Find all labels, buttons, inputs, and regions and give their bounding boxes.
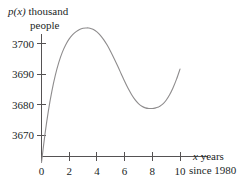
y-tick-label-3690: 3690: [12, 68, 35, 80]
y-axis-title-line1: p(x) thousand: [7, 5, 69, 18]
x-tick-label-8: 8: [150, 165, 156, 177]
y-axis-tick-labels: 3700 3690 3680 3670: [12, 38, 35, 142]
x-tick-label-0: 0: [39, 165, 45, 177]
x-axis-tick-labels: 0 2 4 6 8 10: [39, 165, 186, 177]
chart-svg: 3700 3690 3680 3670 0 2 4 6 8 10 p(x) th…: [0, 0, 250, 195]
population-curve: [42, 28, 181, 163]
x-tick-label-2: 2: [66, 165, 72, 177]
x-tick-label-10: 10: [175, 165, 187, 177]
x-tick-label-4: 4: [94, 165, 100, 177]
y-axis-title-line2: people: [30, 19, 59, 31]
y-tick-label-3670: 3670: [12, 129, 35, 141]
x-axis-title-line2: since 1980: [189, 164, 237, 176]
x-axis-title: x years since 1980: [189, 150, 237, 176]
y-axis-title-unit: thousand: [26, 5, 69, 17]
y-axis-title: p(x) thousand people: [7, 5, 69, 31]
x-tick-label-6: 6: [122, 165, 128, 177]
y-tick-label-3700: 3700: [12, 38, 35, 50]
population-graph-figure: 3700 3690 3680 3670 0 2 4 6 8 10 p(x) th…: [0, 0, 250, 195]
x-axis-title-line1: x years: [192, 150, 224, 162]
y-axis-title-variable: p(x): [7, 5, 26, 18]
x-axis-title-unit: years: [198, 150, 224, 162]
y-tick-label-3680: 3680: [12, 99, 35, 111]
